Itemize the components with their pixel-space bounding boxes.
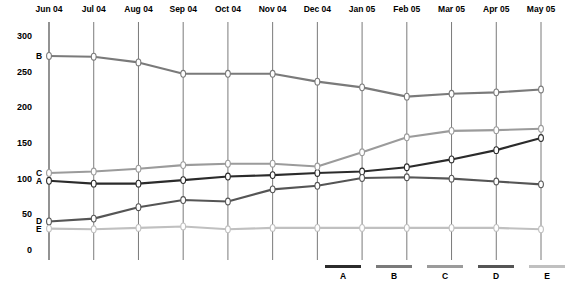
data-point-e (449, 224, 454, 231)
data-point-e (47, 225, 52, 232)
line-chart: Jun 04Jul 04Aug 04Sep 04Oct 04Nov 04Dec … (0, 0, 565, 284)
data-point-d (315, 182, 320, 189)
data-point-c (315, 163, 320, 170)
data-point-a (360, 168, 365, 175)
data-point-a (404, 164, 409, 171)
data-point-e (315, 224, 320, 231)
data-point-d (360, 175, 365, 182)
data-point-b (449, 90, 454, 97)
data-point-a (315, 170, 320, 177)
data-point-a (47, 177, 52, 184)
data-point-c (91, 168, 96, 175)
data-point-c (270, 160, 275, 167)
data-point-d (404, 174, 409, 181)
data-point-d (181, 197, 186, 204)
data-point-b (404, 93, 409, 100)
series-line-a (49, 138, 541, 184)
data-point-c (494, 127, 499, 134)
series-line-e (49, 226, 541, 229)
data-point-b (91, 53, 96, 60)
series-line-c (49, 129, 541, 173)
data-point-d (47, 218, 52, 225)
data-point-a (449, 156, 454, 163)
data-point-a (539, 135, 544, 142)
data-point-e (494, 224, 499, 231)
data-point-d (539, 181, 544, 188)
data-point-e (360, 224, 365, 231)
legend-label-a: A (340, 271, 346, 281)
data-point-b (47, 53, 52, 60)
legend-swatch-d (478, 265, 514, 268)
data-point-e (270, 224, 275, 231)
data-point-a (136, 180, 141, 187)
data-point-c (360, 149, 365, 156)
data-point-d (494, 178, 499, 185)
data-point-e (539, 226, 544, 233)
data-point-a (181, 177, 186, 184)
data-point-c (226, 160, 231, 167)
legend-swatch-e (529, 265, 565, 268)
data-point-d (270, 186, 275, 193)
data-point-b (315, 78, 320, 85)
data-point-c (404, 134, 409, 141)
data-point-e (404, 224, 409, 231)
legend-swatch-b (376, 265, 412, 268)
data-point-e (181, 223, 186, 230)
data-point-e (91, 226, 96, 233)
data-point-c (47, 170, 52, 177)
data-point-d (91, 215, 96, 222)
data-point-c (539, 125, 544, 132)
legend-label-c: C (442, 271, 448, 281)
data-point-e (136, 224, 141, 231)
data-point-d (449, 175, 454, 182)
data-point-a (494, 147, 499, 154)
data-point-b (270, 70, 275, 77)
plot-area (0, 0, 565, 284)
data-point-c (449, 127, 454, 134)
series-line-b (49, 56, 541, 97)
data-point-c (136, 165, 141, 172)
legend-swatch-c (427, 265, 463, 268)
legend-swatch-a (325, 265, 361, 268)
legend-label-b: B (391, 271, 397, 281)
data-point-a (226, 173, 231, 180)
legend-label-d: D (493, 271, 499, 281)
data-point-c (181, 162, 186, 169)
data-point-b (226, 70, 231, 77)
data-point-b (181, 70, 186, 77)
legend-label-e: E (544, 271, 550, 281)
data-point-d (226, 198, 231, 205)
data-point-a (270, 172, 275, 179)
data-point-e (226, 226, 231, 233)
data-point-b (360, 84, 365, 91)
data-point-b (539, 86, 544, 93)
data-point-b (494, 89, 499, 96)
data-point-b (136, 59, 141, 66)
data-point-a (91, 180, 96, 187)
data-point-d (136, 204, 141, 211)
